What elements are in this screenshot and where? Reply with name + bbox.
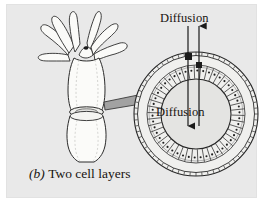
tentacle	[38, 53, 70, 61]
stalk-foot	[67, 116, 106, 162]
caption-text: Two cell layers	[48, 166, 130, 181]
body-column	[68, 58, 105, 112]
hydra-illustration	[38, 12, 127, 162]
mouth-opening	[84, 46, 89, 49]
diffusion-label-top: Diffusion	[160, 11, 209, 26]
diffusion-marker-block	[185, 53, 192, 60]
figure-caption: (b) Two cell layers	[29, 166, 130, 182]
caption-letter: (b)	[29, 166, 45, 181]
figure-two-cell-layers: Diffusion Diffusion (b) Two cell layers	[0, 0, 259, 204]
diffusion-label-inner: Diffusion	[156, 105, 205, 120]
diffusion-marker-block	[196, 62, 202, 68]
stalk-top-ring	[70, 111, 103, 120]
